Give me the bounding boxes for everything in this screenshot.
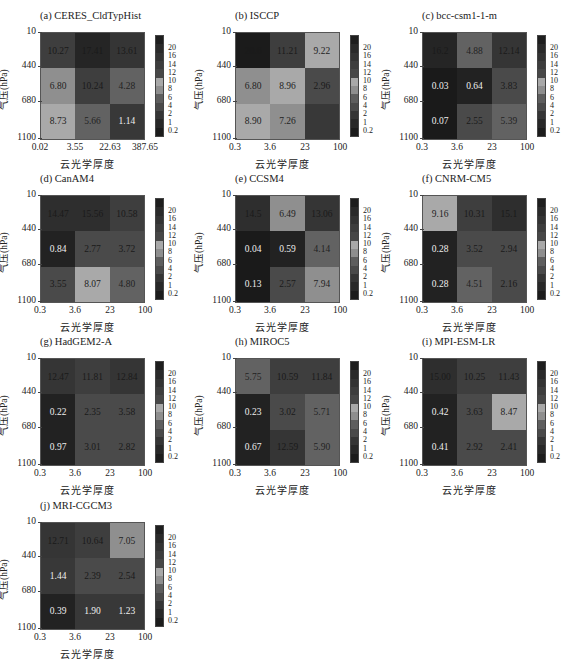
- heatmap-cell: 0.84: [41, 231, 75, 266]
- x-tick-label: 23: [472, 305, 512, 315]
- y-tick-label: 10: [390, 352, 418, 362]
- x-tick-label: 3.6: [437, 142, 477, 152]
- heatmap-cell: 20.6: [236, 33, 270, 68]
- panel-title: (f) CNRM-CM5: [422, 173, 491, 184]
- y-tick-label: 10: [203, 189, 231, 199]
- heatmap-cell: 11.43: [492, 359, 526, 394]
- y-tick-label: 680: [390, 421, 418, 431]
- heatmap-cell: 9.16: [423, 196, 457, 231]
- panel-title: (b) ISCCP: [235, 10, 279, 21]
- heatmap-cell: 2.92: [457, 430, 491, 465]
- heatmap-cell: 17.41: [75, 33, 109, 68]
- heatmap-cell: 10.27: [41, 33, 75, 68]
- heatmap-cell: 14.47: [41, 196, 75, 231]
- colorbar-labels: 2016141210864210.2: [550, 44, 560, 135]
- heatmap-cell: 0.41: [423, 430, 457, 465]
- x-tick-label: 0.3: [402, 305, 442, 315]
- heatmap-cell: 0.39: [41, 594, 75, 629]
- heatmap-cell: 0.03: [423, 68, 457, 103]
- x-tick-label: 23: [90, 305, 130, 315]
- x-tick-label: 23: [472, 468, 512, 478]
- heatmap-cell: 10.31: [457, 196, 491, 231]
- heatmap-panel: (j) MRI-CGCM312.7110.647.051.442.392.540…: [0, 490, 190, 650]
- heatmap-cell: 12.14: [492, 33, 526, 68]
- x-tick-label: 100: [507, 142, 547, 152]
- x-tick-label: 22.63: [90, 142, 130, 152]
- heatmap-cell: 13.61: [110, 33, 144, 68]
- heatmap-cell: 7.05: [110, 523, 144, 558]
- heatmap-cell: 10.24: [75, 68, 109, 103]
- heatmap-cell: 8.07: [75, 267, 109, 302]
- heatmap-cell: 0.28: [423, 267, 457, 302]
- heatmap-cell: 3.63: [457, 394, 491, 429]
- x-tick-label: 3.6: [55, 632, 95, 642]
- colorbar-tick: 0.2: [550, 127, 560, 135]
- panel-title: (g) HadGEM2-A: [40, 336, 112, 347]
- heatmap-cell: 11.84: [305, 359, 339, 394]
- x-tick-label: 3.6: [55, 468, 95, 478]
- panel-title: (d) CanAM4: [40, 173, 94, 184]
- heatmap-cell: 6.49: [270, 196, 304, 231]
- colorbar-labels: 2016141210864210.2: [168, 44, 178, 135]
- heatmap-cell: 13.06: [305, 196, 339, 231]
- heatmap-grid: 16.24.8812.140.030.643.830.072.555.39: [422, 32, 527, 140]
- y-tick-label: 10: [8, 26, 36, 36]
- heatmap-cell: 3.52: [457, 231, 491, 266]
- colorbar-tick: 0.2: [168, 127, 178, 135]
- heatmap-panel: (a) CERES_CldTypHist10.2717.4113.616.801…: [0, 0, 190, 160]
- heatmap-grid: 10.2717.4113.616.8010.244.288.735.661.14: [40, 32, 145, 140]
- x-tick-label: 3.6: [250, 305, 290, 315]
- heatmap-cell: 0.67: [236, 430, 270, 465]
- heatmap-cell: 14.5: [236, 196, 270, 231]
- x-tick-label: 0.3: [215, 305, 255, 315]
- heatmap-cell: 2.96: [305, 68, 339, 103]
- x-tick-label: 23: [90, 468, 130, 478]
- y-tick-label: 680: [203, 95, 231, 105]
- heatmap-cell: 1.23: [110, 594, 144, 629]
- colorbar-labels: 2016141210864210.2: [168, 370, 178, 461]
- heatmap-cell: 2.39: [75, 558, 109, 593]
- heatmap-cell: 4.88: [457, 33, 491, 68]
- y-tick-label: 440: [8, 223, 36, 233]
- x-tick-label: 0.3: [215, 142, 255, 152]
- y-tick-label: 10: [8, 189, 36, 199]
- y-tick-label: 680: [390, 258, 418, 268]
- heatmap-cell: 9.22: [305, 33, 339, 68]
- heatmap-cell: 3.01: [75, 430, 109, 465]
- y-axis-label: 气压(hPa): [191, 395, 205, 436]
- heatmap-panel: (b) ISCCP20.611.219.226.808.962.968.907.…: [195, 0, 385, 160]
- colorbar-tick: 0.2: [168, 617, 178, 625]
- colorbar: [537, 198, 546, 300]
- heatmap-cell: 10.59: [270, 359, 304, 394]
- heatmap-cell: 12.59: [270, 430, 304, 465]
- heatmap-cell: 2.16: [492, 267, 526, 302]
- heatmap-cell: 3.83: [492, 68, 526, 103]
- colorbar-labels: 2016141210864210.2: [363, 370, 373, 461]
- heatmap-cell: 0.07: [423, 104, 457, 139]
- y-axis-label: 气压(hPa): [0, 232, 10, 273]
- heatmap-cell: 7.94: [305, 267, 339, 302]
- colorbar-tick: 0.2: [363, 290, 373, 298]
- heatmap-cell: 5.39: [492, 104, 526, 139]
- heatmap-cell: 4.28: [110, 68, 144, 103]
- heatmap-cell: 5.66: [75, 104, 109, 139]
- heatmap-cell: 12.71: [41, 523, 75, 558]
- colorbar-tick: 0.2: [363, 453, 373, 461]
- heatmap-cell: 6.80: [236, 68, 270, 103]
- heatmap-cell: 15.1: [492, 196, 526, 231]
- heatmap-cell: 11.81: [75, 359, 109, 394]
- heatmap-cell: 15.00: [423, 359, 457, 394]
- panel-title: (e) CCSM4: [235, 173, 284, 184]
- heatmap-cell: 5.71: [305, 394, 339, 429]
- heatmap-cell: 8.96: [270, 68, 304, 103]
- colorbar: [155, 361, 164, 463]
- colorbar: [537, 361, 546, 463]
- y-tick-label: 1100: [203, 458, 231, 468]
- heatmap-cell: 2.55: [457, 104, 491, 139]
- colorbar-labels: 2016141210864210.2: [168, 207, 178, 298]
- heatmap-cell: 2.57: [270, 267, 304, 302]
- x-tick-label: 100: [320, 468, 360, 478]
- colorbar-labels: 2016141210864210.2: [363, 207, 373, 298]
- heatmap-grid: 9.1610.3115.10.283.522.940.284.512.16: [422, 195, 527, 303]
- colorbar: [537, 35, 546, 137]
